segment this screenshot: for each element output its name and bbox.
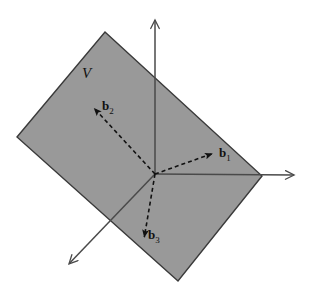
b3-label-subscript: 3 — [155, 235, 160, 245]
horizontal-axis — [155, 174, 294, 175]
plane-label-V: V — [82, 66, 91, 81]
basis-vector-b3-label: b3 — [148, 228, 160, 245]
basis-vector-b2-label: b2 — [102, 99, 114, 116]
diagram-svg — [0, 0, 310, 291]
b1-label-subscript: 1 — [226, 153, 231, 163]
b2-label-subscript: 2 — [109, 106, 114, 116]
basis-vector-b1-label: b1 — [219, 146, 231, 163]
figure-canvas: V b1 b2 b3 — [0, 0, 310, 291]
